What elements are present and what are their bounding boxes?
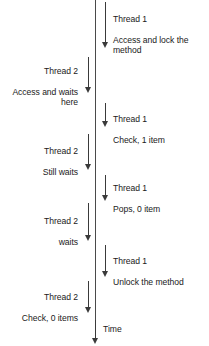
thread-timing-diagram: Time Thread 1 Access and lock the method… [0,0,209,346]
arrow-t1-check-1-item [102,103,109,127]
event-thread-name: Thread 2 [44,292,78,302]
event-label-t1-access-lock: Thread 1 Access and lock the method [113,3,209,56]
event-label-t1-unlock: Thread 1 Unlock the method [113,245,209,287]
event-thread-name: Thread 2 [44,66,78,76]
time-axis-line [95,0,96,334]
event-thread-name: Thread 1 [113,114,147,124]
event-label-t2-check-0-items: Thread 2 Check, 0 items [2,281,78,323]
arrow-t2-check-0-items [85,281,92,313]
event-label-t1-pops-0-item: Thread 1 Pops, 0 item [113,172,209,214]
event-thread-name: Thread 2 [44,146,78,156]
event-thread-name: Thread 1 [113,183,147,193]
event-action-text: Unlock the method [113,277,184,287]
arrow-t2-waits [85,203,92,241]
event-label-t2-access-waits: Thread 2 Access and waits here [2,55,78,108]
arrow-t2-access-waits [85,57,92,93]
time-axis-label: Time [103,324,122,334]
event-label-t1-check-1-item: Thread 1 Check, 1 item [113,103,209,145]
event-action-text: waits [59,237,78,247]
time-axis-arrow [92,320,99,344]
event-action-text: Pops, 0 item [113,204,160,214]
arrow-t2-still-waits [85,134,92,170]
event-thread-name: Thread 1 [113,14,147,24]
arrow-t1-pops-0-item [102,175,109,201]
arrow-t1-unlock [102,245,109,277]
arrow-t1-access-lock [102,2,109,48]
event-thread-name: Thread 1 [113,256,147,266]
event-action-text: Still waits [43,167,78,177]
event-thread-name: Thread 2 [44,216,78,226]
event-label-t2-still-waits: Thread 2 Still waits [2,135,78,177]
event-action-text: Check, 1 item [113,135,165,145]
event-action-text: Access and waits here [12,87,78,108]
event-label-t2-waits: Thread 2 waits [2,205,78,247]
event-action-text: Check, 0 items [22,313,78,323]
event-action-text: Access and lock the method [113,35,188,56]
